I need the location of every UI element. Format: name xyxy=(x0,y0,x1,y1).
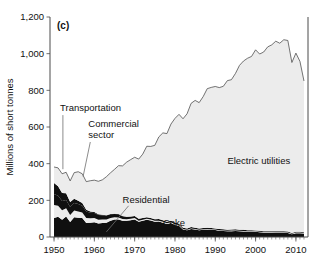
x-tick-label-1990: 1990 xyxy=(205,244,226,255)
residential-label: Residential xyxy=(123,194,170,205)
commercial-sector-label2: sector xyxy=(88,129,114,140)
x-tick-label-2000: 2000 xyxy=(245,244,266,255)
coke-label: Coke xyxy=(163,217,185,228)
y-tick-label-1000: 1,000 xyxy=(20,48,44,59)
y-tick-label-800: 800 xyxy=(28,85,44,96)
y-tick-label-600: 600 xyxy=(28,121,44,132)
panel-label: (c) xyxy=(57,20,69,31)
commercial-sector-label: Commercial xyxy=(88,118,139,129)
transportation-label: Transportation xyxy=(60,102,121,113)
x-tick-label-1960: 1960 xyxy=(84,244,105,255)
stacked-area-chart: 02004006008001,0001,20019501960197019801… xyxy=(0,0,324,266)
x-tick-label-1970: 1970 xyxy=(124,244,145,255)
y-tick-label-400: 400 xyxy=(28,158,44,169)
y-tick-label-200: 200 xyxy=(28,195,44,206)
y-axis-title: Millions of short tonnes xyxy=(4,78,15,175)
x-tick-label-1980: 1980 xyxy=(164,244,185,255)
figure-panel-c: 02004006008001,0001,20019501960197019801… xyxy=(0,0,324,266)
y-tick-label-1200: 1,200 xyxy=(20,11,44,22)
y-tick-label-0: 0 xyxy=(39,231,44,242)
x-tick-label-2010: 2010 xyxy=(285,244,306,255)
electric-utilities-label: Electric utilities xyxy=(227,155,290,166)
x-tick-label-1950: 1950 xyxy=(43,244,64,255)
